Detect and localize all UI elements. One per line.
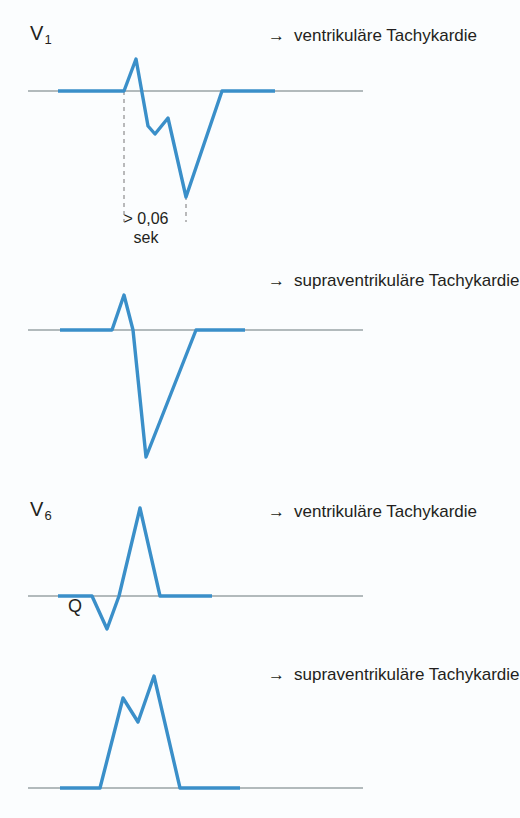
ecg-panel-v6-ventricular: V6 →ventrikuläre Tachykardie Q [0,480,520,645]
ecg-panel-v1-ventricular: V1 →ventrikuläre Tachykardie > 0,06 sek [0,0,520,245]
ecg-trace-v1-ventricular [0,0,520,245]
q-wave-label: Q [68,596,82,617]
ecg-waveform-path [58,59,275,197]
ecg-panel-v6-supraventricular: →supraventrikuläre Tachykardie [0,645,520,818]
ecg-panel-v1-supraventricular: →supraventrikuläre Tachykardie [0,245,520,480]
ecg-waveform-path [60,295,245,457]
ecg-trace-v6-ventricular [0,480,520,645]
interval-annotation-v1: > 0,06 sek [104,210,188,248]
ecg-trace-v6-supraventricular [0,645,520,818]
interval-annotation-v1-value: > 0,06 [104,210,188,229]
ecg-figure: V1 →ventrikuläre Tachykardie > 0,06 sek … [0,0,520,818]
ecg-waveform-path [60,676,240,788]
ecg-trace-v1-supraventricular [0,245,520,480]
